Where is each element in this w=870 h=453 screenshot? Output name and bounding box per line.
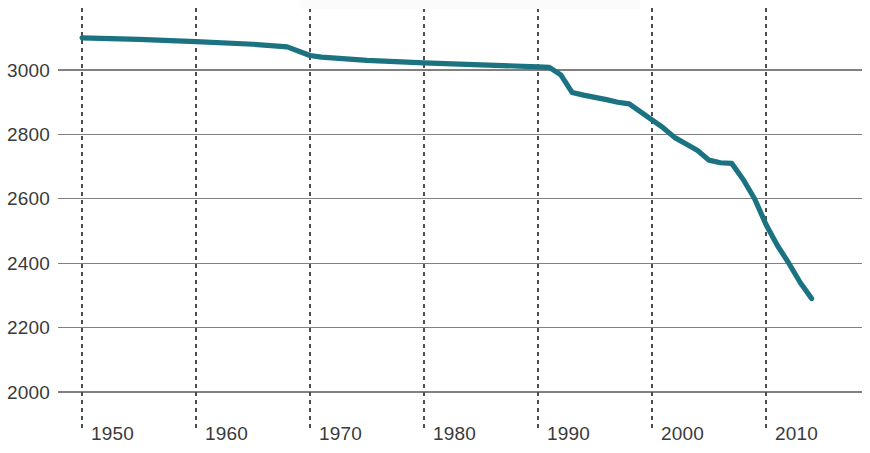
series-line-1 [82,38,812,299]
data-series-group [82,38,812,299]
horizontal-gridlines [68,70,862,392]
x-axis-tick-label: 1980 [433,423,476,444]
x-axis-tick-label: 2010 [775,423,818,444]
x-axis-tick-label: 1950 [91,423,134,444]
line-chart-figure: 200022002400260028003000 195019601970198… [0,0,870,453]
x-axis-tick-label: 1960 [205,423,248,444]
y-axis-tick-label: 3000 [7,60,50,81]
x-axis-tick-labels: 1950196019701980199020002010 [91,423,818,444]
y-axis-tick-label: 2800 [7,124,50,145]
y-axis-tick-label: 2000 [7,382,50,403]
y-axis-tick-label: 2600 [7,188,50,209]
chart-canvas: 200022002400260028003000 195019601970198… [0,0,870,453]
x-axis-tick-label: 2000 [661,423,704,444]
y-axis-tick-label: 2200 [7,317,50,338]
x-axis-tick-label: 1970 [319,423,362,444]
y-axis-tick-label: 2400 [7,253,50,274]
vertical-dashed-lines [82,8,766,430]
y-axis-tick-labels: 200022002400260028003000 [7,60,50,403]
y-axis-tick-marks [58,70,70,392]
x-axis-tick-label: 1990 [547,423,590,444]
